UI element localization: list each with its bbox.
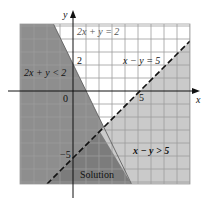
- x-tick-5: 5: [139, 93, 144, 103]
- y-tick-neg5: −5: [60, 150, 71, 160]
- region2-label: x − y > 5: [133, 146, 169, 156]
- origin-label: 0: [63, 94, 68, 104]
- y-tick-2: 2: [77, 56, 82, 66]
- x-axis-label: x: [196, 95, 200, 105]
- line2-equation-label: x − y = 5: [123, 56, 160, 66]
- y-axis-label: y: [63, 10, 67, 20]
- region1-label: 2x + y < 2: [24, 68, 66, 78]
- solution-label: Solution: [80, 170, 114, 180]
- y-axis-arrow-icon: [70, 10, 76, 18]
- line1-equation-label: 2x + y = 2: [77, 27, 119, 37]
